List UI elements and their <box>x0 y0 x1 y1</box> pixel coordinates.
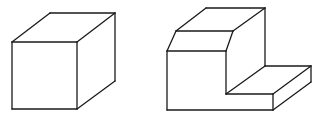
stepped-block-edge <box>167 31 176 51</box>
stepped-block-shape <box>167 8 311 110</box>
stepped-block-edge <box>176 8 206 31</box>
stepped-block-edge <box>226 66 265 94</box>
cube-edge <box>12 13 50 42</box>
stepped-block-edge <box>226 31 233 51</box>
isometric-figures <box>0 0 321 122</box>
stepped-block-edge <box>233 8 265 31</box>
stepped-block-edge <box>273 82 311 110</box>
stepped-block-edge <box>273 66 311 94</box>
cube-edge <box>77 81 115 109</box>
cube-edge <box>77 13 115 42</box>
diagram-canvas <box>0 0 321 122</box>
cube-shape <box>12 13 115 109</box>
